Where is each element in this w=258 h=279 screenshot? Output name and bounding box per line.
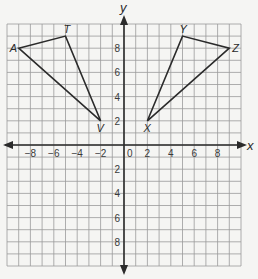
y-tick-label: 6: [114, 67, 120, 78]
x-axis-label: x: [246, 138, 254, 153]
x-tick-label: −2: [95, 148, 107, 159]
x-tick-label: −4: [71, 148, 83, 159]
y-tick-label: 4: [114, 188, 120, 199]
y-tick-label: 8: [114, 237, 120, 248]
x-tick-label: −8: [25, 148, 37, 159]
x-tick-label: −6: [48, 148, 60, 159]
x-tick-label: 8: [215, 148, 221, 159]
vertex-label-z: Z: [231, 42, 240, 54]
y-tick-label: 2: [114, 116, 120, 127]
x-tick-label: 2: [145, 148, 151, 159]
origin-label: 0: [127, 148, 133, 159]
coordinate-plane: −8−6−4−2246886422468 ATVXYZ x y 0: [0, 0, 258, 279]
y-tick-label: 6: [114, 213, 120, 224]
y-tick-label: 2: [114, 164, 120, 175]
vertex-label-a: A: [9, 42, 17, 54]
background: [0, 0, 258, 279]
y-tick-label: 4: [114, 92, 120, 103]
vertex-label-y: Y: [180, 23, 188, 35]
vertex-label-x: X: [142, 122, 151, 134]
x-tick-label: 4: [168, 148, 174, 159]
x-tick-label: 6: [191, 148, 197, 159]
y-tick-label: 8: [114, 43, 120, 54]
